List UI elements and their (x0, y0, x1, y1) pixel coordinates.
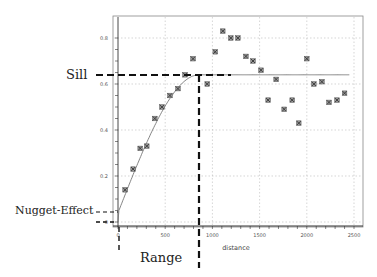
data-point-marker (153, 116, 158, 121)
data-point-marker (274, 77, 279, 82)
x-tick-label: 1500 (253, 232, 266, 238)
data-point-marker (131, 167, 136, 172)
x-tick-label: 500 (160, 232, 170, 238)
data-point-marker (296, 121, 301, 126)
x-tick-label: 2500 (348, 232, 361, 238)
data-point-marker (312, 82, 317, 87)
fitted-model-curve (118, 75, 349, 222)
grid-lines (114, 17, 362, 226)
semivariogram-chart: 00.20.40.60.8 05001000150020002500 dista… (0, 0, 377, 277)
data-point-marker (220, 29, 225, 34)
data-point-marker (251, 59, 256, 64)
axes (113, 17, 363, 229)
data-points (123, 29, 347, 192)
data-point-marker (191, 56, 196, 61)
data-point-marker (320, 79, 325, 84)
y-tick-labels: 00.20.40.60.8 (100, 35, 108, 225)
x-tick-labels: 05001000150020002500 (116, 232, 360, 238)
data-point-marker (335, 98, 340, 103)
x-axis-title: distance (222, 244, 250, 252)
data-point-marker (305, 56, 310, 61)
data-point-marker (342, 91, 347, 96)
data-point-marker (160, 105, 165, 110)
data-point-marker (123, 188, 128, 193)
y-tick-label: 0.8 (100, 35, 108, 41)
y-tick-label: 0.6 (100, 81, 108, 87)
x-tick-label: 2000 (300, 232, 313, 238)
data-point-marker (138, 146, 143, 151)
y-tick-label: 0.4 (100, 127, 108, 133)
data-point-marker (290, 98, 295, 103)
data-point-marker (176, 86, 181, 91)
plot-frame (113, 16, 363, 227)
data-point-marker (327, 100, 332, 105)
data-point-marker (244, 54, 249, 59)
y-tick-label: 0.2 (100, 173, 108, 179)
range-label: Range (140, 250, 183, 265)
sill-label: Sill (66, 67, 87, 82)
data-point-marker (236, 36, 241, 41)
data-point-marker (229, 36, 234, 41)
data-point-marker (259, 68, 264, 73)
data-point-marker (266, 98, 271, 103)
data-point-marker (282, 107, 287, 112)
data-point-marker (213, 50, 218, 55)
data-point-marker (205, 82, 210, 87)
x-tick-label: 1000 (206, 232, 219, 238)
nugget-effect-label: Nugget-Effect (15, 204, 94, 217)
data-point-marker (168, 93, 173, 98)
data-point-marker (144, 144, 149, 149)
